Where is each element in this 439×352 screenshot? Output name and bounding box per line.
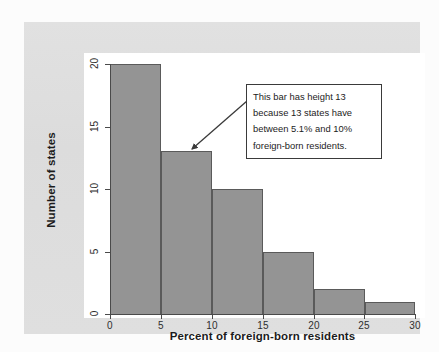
x-axis-tick	[161, 314, 162, 319]
y-axis-tick-label: 15	[89, 119, 100, 135]
y-axis-tick-label: 10	[89, 181, 100, 197]
y-axis-tick-label: 20	[89, 56, 100, 72]
histogram-bar	[161, 151, 212, 315]
annotation-callout: This bar has height 13 because 13 states…	[246, 84, 382, 159]
histogram-bar	[212, 189, 263, 315]
histogram-bar	[263, 252, 314, 315]
x-axis-tick	[415, 314, 416, 319]
y-axis-tick	[105, 64, 110, 65]
annotation-line: between 5.1% and 10%	[253, 121, 376, 137]
y-axis-tick-label: 5	[89, 244, 100, 260]
x-axis-tick	[314, 314, 315, 319]
annotation-line: foreign-born residents.	[253, 138, 376, 154]
histogram-bar	[314, 289, 365, 315]
annotation-line: This bar has height 13	[253, 89, 376, 105]
y-axis-tick	[105, 189, 110, 190]
y-axis-tick-label: 0	[89, 306, 100, 322]
x-axis-tick	[212, 314, 213, 319]
y-axis-tick	[105, 127, 110, 128]
x-axis-title: Percent of foreign-born residents	[110, 330, 415, 342]
y-axis-title: Number of states	[45, 120, 57, 240]
histogram-bar	[110, 64, 161, 315]
x-axis-tick	[364, 314, 365, 319]
y-axis-tick	[105, 314, 110, 315]
x-axis-tick	[263, 314, 264, 319]
figure-panel: 0 5 10 15 20 25 30 0 5 10 15 20 Percent …	[24, 22, 420, 334]
x-axis-tick	[110, 314, 111, 319]
annotation-line: because 13 states have	[253, 105, 376, 121]
y-axis-tick	[105, 252, 110, 253]
histogram-figure: 0 5 10 15 20 25 30 0 5 10 15 20 Percent …	[0, 0, 439, 352]
y-axis-line	[110, 64, 111, 315]
